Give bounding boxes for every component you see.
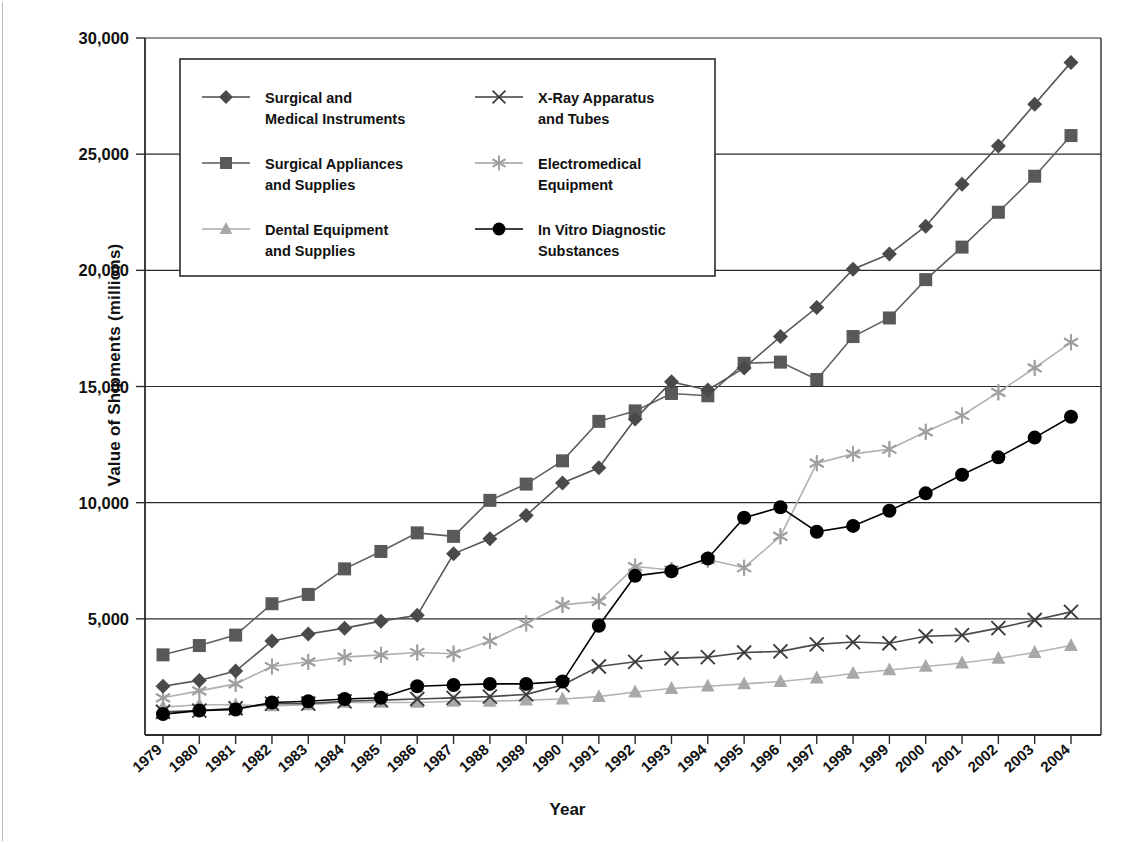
circle-marker: [483, 677, 497, 691]
circle-marker: [737, 511, 751, 525]
circle-marker: [592, 619, 606, 633]
legend-label: and Supplies: [265, 177, 355, 193]
legend-label: X-Ray Apparatus: [538, 90, 654, 106]
square-marker: [1065, 129, 1078, 142]
circle-marker: [628, 569, 642, 583]
diamond-marker: [591, 460, 606, 475]
legend-label: Dental Equipment: [265, 222, 388, 238]
circle-marker: [556, 675, 570, 689]
asterisk-marker: [810, 455, 824, 471]
square-marker: [193, 639, 206, 652]
x-tick-label: 1980: [165, 741, 201, 776]
x-tick-label: 1999: [855, 741, 891, 776]
circle-marker: [519, 677, 533, 691]
y-tick-label: 15,000: [79, 378, 129, 396]
circle-marker: [882, 504, 896, 518]
y-tick-label: 10,000: [79, 494, 129, 512]
square-marker: [447, 530, 460, 543]
y-tick-label: 5,000: [88, 610, 129, 628]
square-marker: [157, 648, 170, 661]
asterisk-marker: [737, 560, 751, 576]
legend-label: In Vitro Diagnostic: [538, 222, 666, 238]
square-marker: [220, 157, 232, 169]
square-marker: [956, 241, 969, 254]
diamond-marker: [446, 546, 461, 561]
circle-marker: [846, 519, 860, 533]
chart-legend: Surgical andMedical InstrumentsX-Ray App…: [180, 59, 715, 276]
cross-marker: [1028, 613, 1042, 627]
square-marker: [883, 311, 896, 324]
series-line: [163, 342, 1071, 697]
square-marker: [338, 562, 351, 575]
diamond-marker: [373, 614, 388, 629]
asterisk-marker: [519, 615, 533, 631]
square-marker: [302, 588, 315, 601]
diamond-marker: [301, 626, 316, 641]
x-tick-label: 1994: [674, 740, 711, 775]
x-tick-label: 2004: [1037, 740, 1074, 775]
x-tick-label: 1982: [238, 741, 274, 776]
circle-marker: [447, 678, 461, 692]
asterisk-marker: [483, 633, 497, 649]
series-asterisk: [156, 334, 1078, 705]
square-marker: [411, 526, 424, 539]
circle-marker: [338, 692, 352, 706]
x-tick-label: 1991: [565, 741, 601, 776]
circle-marker: [1028, 431, 1042, 445]
x-tick-label: 1983: [274, 741, 310, 776]
asterisk-marker: [1064, 334, 1078, 350]
diamond-marker: [482, 531, 497, 546]
x-tick-label: 1997: [783, 741, 819, 776]
square-marker: [1028, 170, 1041, 183]
legend-label: Equipment: [538, 177, 613, 193]
y-tick-label: 20,000: [79, 261, 129, 279]
diamond-marker: [192, 673, 207, 688]
asterisk-marker: [919, 424, 933, 440]
cross-marker: [991, 621, 1005, 635]
legend-label: and Supplies: [265, 243, 355, 259]
circle-marker: [301, 694, 315, 708]
diamond-marker: [882, 247, 897, 262]
x-tick-label: 1992: [601, 741, 637, 776]
triangle-marker: [1064, 638, 1078, 651]
circle-marker: [664, 564, 678, 578]
square-marker: [992, 206, 1005, 219]
y-tick-label: 30,000: [79, 29, 129, 47]
circle-marker: [773, 500, 787, 514]
circle-marker: [955, 468, 969, 482]
circle-marker: [229, 702, 243, 716]
x-tick-label: 2000: [892, 741, 928, 776]
legend-label: Medical Instruments: [265, 111, 405, 127]
square-marker: [229, 629, 242, 642]
diamond-marker: [337, 621, 352, 636]
circle-marker: [1064, 410, 1078, 424]
circle-marker: [493, 223, 506, 236]
x-tick-label: 1989: [492, 741, 528, 776]
x-tick-labels: 1979198019811982198319841985198619871988…: [129, 740, 1074, 775]
series-line: [163, 646, 1071, 708]
x-tick-label: 2003: [1001, 741, 1037, 776]
square-marker: [592, 415, 605, 428]
circle-marker: [374, 691, 388, 705]
chart-page: Value of Shipments (millions) Year 5,000…: [0, 0, 1135, 843]
x-tick-label: 1986: [383, 741, 419, 776]
legend-label: Substances: [538, 243, 619, 259]
square-marker: [810, 373, 823, 386]
x-tick-label: 2001: [928, 741, 964, 776]
asterisk-marker: [955, 408, 969, 424]
circle-marker: [919, 486, 933, 500]
cross-marker: [1064, 605, 1078, 619]
series-line: [163, 612, 1071, 712]
legend-label: Electromedical: [538, 156, 641, 172]
circle-marker: [810, 525, 824, 539]
triangle-marker: [410, 695, 424, 708]
circle-marker: [991, 450, 1005, 464]
square-marker: [919, 273, 932, 286]
x-tick-label: 1996: [746, 741, 782, 776]
x-tick-label: 1993: [637, 741, 673, 776]
asterisk-marker: [774, 528, 788, 544]
legend-label: Surgical and: [265, 90, 352, 106]
legend-label: and Tubes: [538, 111, 609, 127]
legend-label: Surgical Appliances: [265, 156, 403, 172]
triangle-marker: [447, 694, 461, 707]
